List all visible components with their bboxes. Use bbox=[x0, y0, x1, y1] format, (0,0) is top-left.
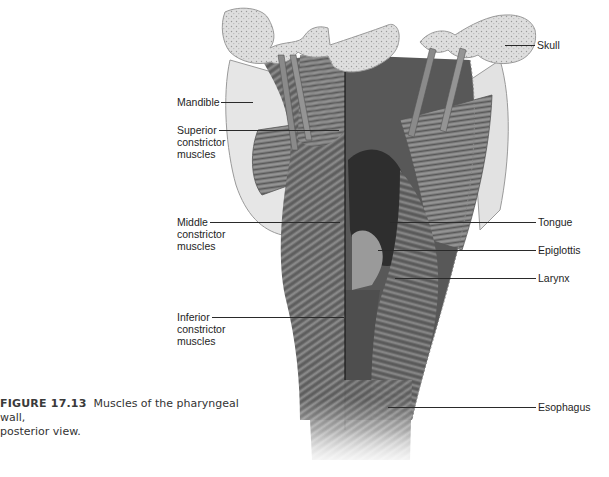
leader-line-epiglottis bbox=[378, 250, 536, 251]
leader-line-esophagus bbox=[388, 407, 536, 408]
leader-line-middle-constrictor bbox=[210, 222, 340, 223]
leader-line-superior-constrictor bbox=[219, 130, 339, 131]
leader-line-skull bbox=[505, 45, 535, 46]
leader-line-larynx bbox=[395, 278, 536, 279]
figure-number: FIGURE 17.13 bbox=[0, 397, 87, 410]
label-epiglottis: Epiglottis bbox=[538, 244, 581, 256]
label-esophagus: Esophagus bbox=[538, 401, 591, 413]
caption-line-2: posterior view. bbox=[0, 425, 81, 438]
leader-line-tongue bbox=[390, 222, 536, 223]
leader-line-inferior-constrictor bbox=[212, 317, 344, 318]
figure-caption: FIGURE 17.13 Muscles of the pharyngeal w… bbox=[0, 397, 260, 439]
label-skull: Skull bbox=[537, 39, 560, 51]
label-larynx: Larynx bbox=[538, 272, 570, 284]
figure: Mandible Superior constrictor muscles Mi… bbox=[0, 0, 609, 477]
leader-line-mandible bbox=[221, 102, 253, 103]
label-tongue: Tongue bbox=[538, 216, 572, 228]
label-mandible: Mandible bbox=[177, 96, 220, 108]
